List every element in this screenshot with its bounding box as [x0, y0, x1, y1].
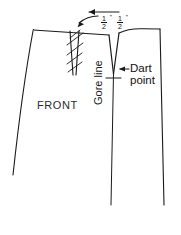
fraction-denominator: 2 [117, 23, 123, 30]
transfer-arrow-curved [77, 16, 98, 27]
pattern-drawing-svg [0, 0, 181, 235]
waistline-right [119, 29, 160, 33]
inch-mark-icon: ″ [126, 14, 128, 20]
gore-line-label: Gore line [93, 60, 105, 105]
fraction-one-half-left: 1 2 ″ [101, 15, 107, 30]
pattern-diagram-canvas: FRONT Dart point Gore line 1 2 ″ 1 2 ″ [0, 0, 181, 235]
front-label: FRONT [37, 100, 78, 112]
dart-point-label-line1: Dart [130, 62, 155, 74]
fraction-one-half-right: 1 2 ″ [117, 15, 123, 30]
side-seam-left [13, 31, 33, 175]
hatch-lines-group [67, 30, 83, 72]
fraction-denominator: 2 [101, 23, 107, 30]
inch-mark-icon: ″ [110, 14, 112, 20]
fraction-numerator: 1 [117, 15, 123, 23]
dart-edge-left [109, 35, 114, 74]
dart-point-label: Dart point [130, 62, 155, 86]
dart-point-callout-arrow [119, 67, 129, 72]
gore-line-path [111, 74, 114, 205]
side-seam-right [160, 29, 164, 205]
dart-edge-right [114, 33, 120, 74]
fraction-numerator: 1 [101, 15, 107, 23]
waistline-left [33, 30, 109, 35]
dart-point-label-line2: point [130, 74, 155, 86]
